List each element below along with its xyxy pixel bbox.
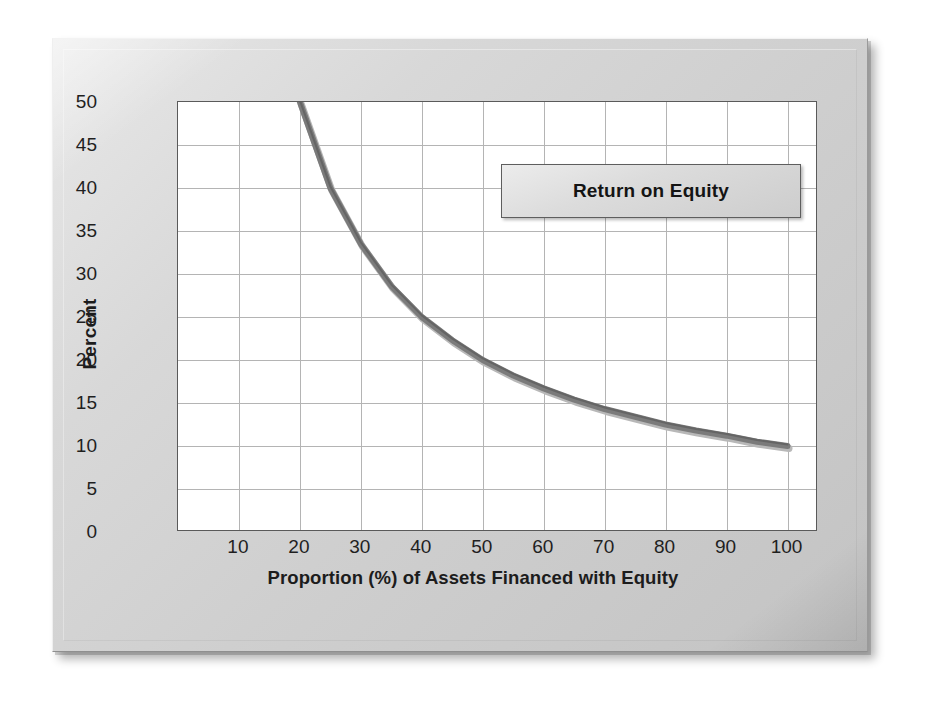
x-tick-label: 100 bbox=[757, 537, 817, 556]
y-tick-label: 35 bbox=[37, 221, 97, 240]
x-tick-label: 40 bbox=[391, 537, 451, 556]
y-axis-title: Percent bbox=[79, 279, 101, 389]
y-tick-label: 10 bbox=[37, 436, 97, 455]
y-tick-label: 0 bbox=[37, 522, 97, 541]
legend-box[interactable]: Return on Equity bbox=[501, 164, 801, 218]
x-axis-title: Proportion (%) of Assets Financed with E… bbox=[123, 567, 823, 589]
x-tick-label: 70 bbox=[574, 537, 634, 556]
y-tick-label: 45 bbox=[37, 135, 97, 154]
y-tick-label: 20 bbox=[37, 350, 97, 369]
y-tick-label: 5 bbox=[37, 479, 97, 498]
figure-panel: Percent 05101520253035404550 10203040506… bbox=[52, 38, 868, 652]
chart-area: Percent 05101520253035404550 10203040506… bbox=[53, 39, 869, 653]
y-tick-label: 50 bbox=[37, 92, 97, 111]
x-tick-label: 60 bbox=[513, 537, 573, 556]
curve-shadow bbox=[301, 105, 789, 449]
y-tick-label: 15 bbox=[37, 393, 97, 412]
x-tick-label: 30 bbox=[330, 537, 390, 556]
x-tick-label: 50 bbox=[452, 537, 512, 556]
y-tick-label: 30 bbox=[37, 264, 97, 283]
y-tick-label: 40 bbox=[37, 178, 97, 197]
x-tick-label: 20 bbox=[269, 537, 329, 556]
x-tick-label: 10 bbox=[208, 537, 268, 556]
legend-label: Return on Equity bbox=[573, 180, 729, 202]
y-tick-label: 25 bbox=[37, 307, 97, 326]
x-tick-label: 80 bbox=[635, 537, 695, 556]
series-line-return-on-equity bbox=[300, 102, 788, 446]
x-tick-label: 90 bbox=[696, 537, 756, 556]
